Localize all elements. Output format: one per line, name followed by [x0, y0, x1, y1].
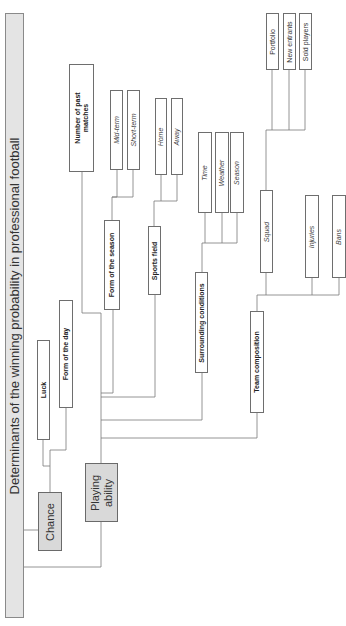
node-number-of-past-matches-line2: matches: [82, 104, 89, 132]
node-luck: Luck: [37, 340, 50, 440]
node-team-composition: Team composition: [250, 311, 264, 413]
node-form-of-the-day-label: Form of the day: [62, 328, 70, 381]
node-weather-label: Weather: [218, 159, 226, 185]
node-injuries: Injuries: [305, 195, 319, 278]
node-squad: Squad: [260, 190, 273, 273]
node-short-term: Short-term: [127, 90, 140, 170]
node-chance-label: Chance: [44, 503, 57, 541]
node-surrounding-conditions-label: Surrounding conditions: [197, 283, 205, 362]
node-number-of-past-matches-label: Number of past matches: [73, 92, 89, 143]
node-luck-label: Luck: [39, 382, 47, 398]
node-away: Away: [171, 98, 183, 175]
node-team-composition-label: Team composition: [253, 331, 261, 392]
diagram-title-box: Determinants of the winning probability …: [5, 13, 24, 618]
node-form-of-the-season-label: Form of the season: [108, 233, 116, 298]
node-portfolio-label: Portfolio: [268, 29, 276, 55]
node-playing-ability: Playing ability: [85, 463, 118, 522]
node-sold-players: Sold players: [299, 13, 312, 70]
node-playing-ability-line1: Playing: [89, 474, 101, 510]
node-new-entrants: New entrants: [283, 13, 296, 70]
node-new-entrants-label: New entrants: [285, 21, 293, 62]
node-surrounding-conditions: Surrounding conditions: [195, 272, 208, 373]
diagram-title: Determinants of the winning probability …: [7, 137, 22, 494]
node-number-of-past-matches: Number of past matches: [69, 64, 94, 172]
node-bans: Bans: [332, 195, 346, 278]
node-sports-field: Sports field: [148, 226, 161, 295]
node-home-label: Home: [157, 127, 165, 146]
node-chance: Chance: [38, 492, 62, 551]
node-mid-term-label: Mid-term: [112, 116, 120, 144]
node-form-of-the-season: Form of the season: [104, 220, 120, 310]
node-playing-ability-line2: ability: [102, 478, 114, 506]
node-short-term-label: Short-term: [129, 113, 137, 146]
node-form-of-the-day: Form of the day: [59, 300, 73, 408]
node-playing-ability-label: Playing ability: [89, 474, 114, 510]
node-bans-label: Bans: [335, 229, 343, 245]
node-season-label: Season: [233, 161, 241, 185]
node-time-label: Time: [201, 165, 209, 181]
node-injuries-label: Injuries: [308, 225, 316, 248]
node-portfolio: Portfolio: [266, 13, 279, 70]
node-squad-label: Squad: [262, 221, 270, 241]
node-weather: Weather: [215, 132, 229, 213]
node-time: Time: [198, 132, 212, 213]
node-number-of-past-matches-line1: Number of past: [73, 92, 80, 143]
node-sports-field-label: Sports field: [150, 241, 158, 280]
tree-diagram: Determinants of the winning probability …: [0, 0, 346, 626]
node-away-label: Away: [173, 128, 181, 145]
node-mid-term: Mid-term: [110, 90, 123, 170]
node-home: Home: [155, 98, 167, 175]
node-season: Season: [230, 132, 244, 213]
node-sold-players-label: Sold players: [301, 22, 309, 61]
